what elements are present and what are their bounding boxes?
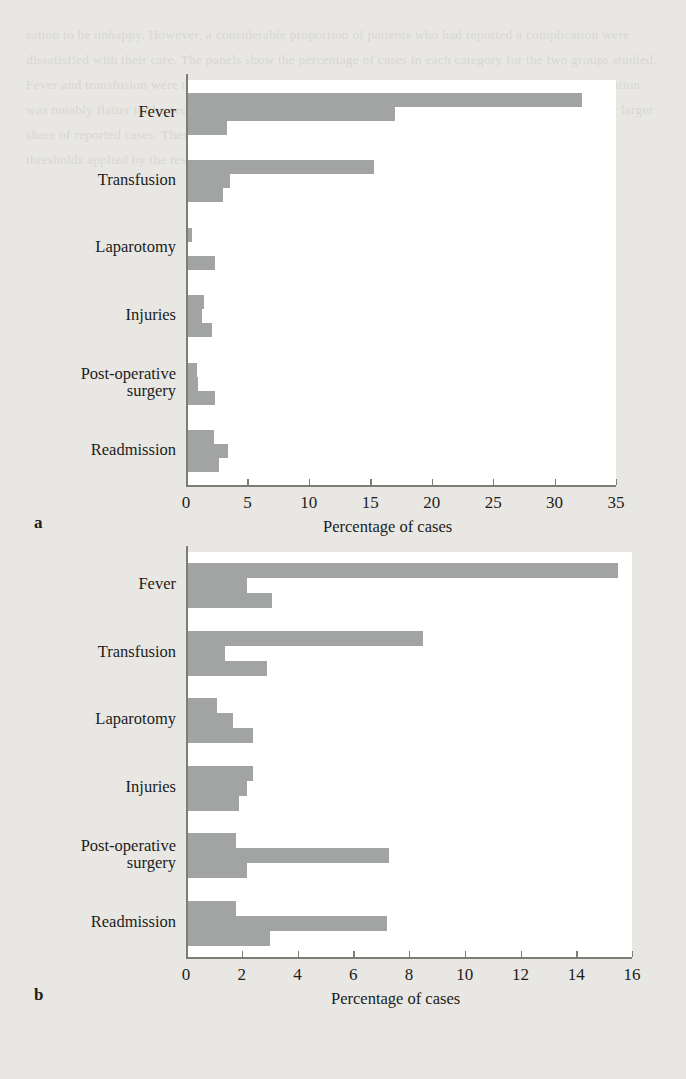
category-label: Laparotomy (26, 238, 176, 255)
bar (186, 458, 219, 472)
x-axis-tick (632, 951, 633, 957)
x-axis-tick (186, 479, 187, 485)
x-tick-label: 16 (624, 965, 641, 985)
x-tick-label: 0 (182, 965, 191, 985)
chart-panel-a: FeverTransfusionLaparotomyInjuriesPost-o… (0, 60, 686, 515)
x-axis-tick (555, 479, 556, 485)
x-tick-label: 8 (405, 965, 414, 985)
bar (186, 713, 233, 728)
x-axis-line (186, 485, 616, 487)
y-axis-line (186, 546, 188, 957)
bar (186, 728, 253, 743)
x-tick-label: 35 (608, 493, 625, 513)
x-axis-tick (616, 479, 617, 485)
x-axis-title-a: Percentage of cases (323, 517, 452, 537)
bar (186, 781, 247, 796)
bar (186, 578, 247, 593)
x-axis-tick (242, 951, 243, 957)
bar (186, 430, 214, 444)
bar (186, 391, 215, 405)
bar (186, 93, 582, 107)
plot-area-a (186, 80, 616, 485)
x-tick-label: 2 (238, 965, 247, 985)
bar (186, 766, 253, 781)
panel-letter-a: a (34, 513, 43, 533)
x-axis-line (186, 957, 632, 959)
x-tick-label: 5 (243, 493, 252, 513)
x-axis-tick (465, 951, 466, 957)
plot-area-b (186, 552, 632, 957)
x-tick-label: 30 (546, 493, 563, 513)
category-label: Readmission (26, 441, 176, 458)
x-axis-tick (370, 479, 371, 485)
x-axis-tick (186, 951, 187, 957)
bar (186, 107, 395, 121)
x-axis-tick (409, 951, 410, 957)
bar (186, 377, 198, 391)
category-label: Injuries (26, 778, 176, 795)
x-axis-tick (493, 479, 494, 485)
bar (186, 363, 197, 377)
x-tick-label: 6 (349, 965, 358, 985)
bar (186, 444, 228, 458)
bar (186, 796, 239, 811)
x-axis-tick (309, 479, 310, 485)
x-axis-tick (432, 479, 433, 485)
x-tick-label: 10 (456, 965, 473, 985)
category-label: Readmission (26, 913, 176, 930)
category-label: Post-operative surgery (26, 837, 176, 871)
y-axis-line (186, 74, 188, 485)
bar (186, 160, 374, 174)
bar (186, 188, 223, 202)
bar (186, 661, 267, 676)
x-tick-label: 25 (485, 493, 502, 513)
bar (186, 901, 236, 916)
category-label: Laparotomy (26, 710, 176, 727)
x-tick-label: 15 (362, 493, 379, 513)
x-axis-tick (247, 479, 248, 485)
category-label: Fever (26, 103, 176, 120)
bar (186, 323, 212, 337)
bar (186, 121, 227, 135)
x-tick-label: 12 (512, 965, 529, 985)
bar (186, 174, 230, 188)
bar (186, 309, 202, 323)
category-label: Injuries (26, 306, 176, 323)
x-axis-tick (576, 951, 577, 957)
bar (186, 295, 204, 309)
bar (186, 698, 217, 713)
bar (186, 646, 225, 661)
bar (186, 931, 270, 946)
x-axis-tick (353, 951, 354, 957)
category-label: Fever (26, 575, 176, 592)
bar (186, 848, 389, 863)
x-tick-label: 10 (300, 493, 317, 513)
panel-letter-b: b (34, 985, 43, 1005)
x-tick-label: 0 (182, 493, 191, 513)
x-tick-label: 4 (293, 965, 302, 985)
x-axis-title-b: Percentage of cases (331, 989, 460, 1009)
bar (186, 631, 423, 646)
bar (186, 593, 272, 608)
category-label: Transfusion (26, 643, 176, 660)
x-tick-label: 20 (423, 493, 440, 513)
chart-panel-b: FeverTransfusionLaparotomyInjuriesPost-o… (0, 540, 686, 1010)
category-label: Post-operative surgery (26, 365, 176, 399)
bar (186, 863, 247, 878)
category-label: Transfusion (26, 171, 176, 188)
x-axis-tick (298, 951, 299, 957)
x-tick-label: 14 (568, 965, 585, 985)
bar (186, 916, 387, 931)
bar (186, 833, 236, 848)
bar (186, 256, 215, 270)
x-axis-tick (521, 951, 522, 957)
bar (186, 563, 618, 578)
